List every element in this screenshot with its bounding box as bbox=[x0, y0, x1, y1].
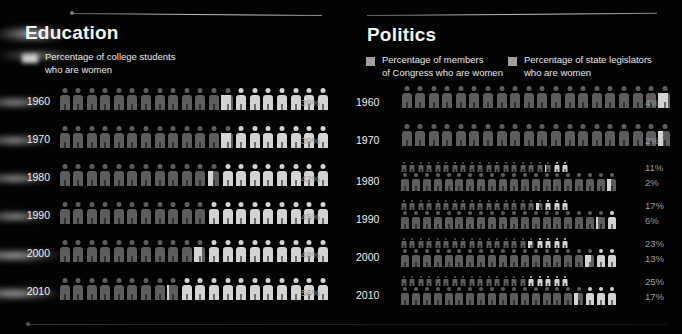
person-icon bbox=[153, 164, 166, 186]
person-icon bbox=[531, 249, 541, 267]
person-icon bbox=[444, 211, 454, 229]
person-icon bbox=[585, 287, 595, 305]
person-icon bbox=[550, 86, 563, 108]
legend-swatch-icon bbox=[508, 57, 517, 66]
person-icon bbox=[553, 276, 560, 286]
person-icon bbox=[542, 211, 552, 229]
person-icon bbox=[509, 249, 519, 267]
person-icon bbox=[180, 164, 193, 186]
person-icon bbox=[550, 124, 563, 146]
person-icon bbox=[400, 162, 407, 172]
percent-label: 48% bbox=[301, 249, 320, 260]
person-icon bbox=[511, 162, 518, 172]
person-icon bbox=[140, 126, 153, 148]
person-icon bbox=[477, 276, 484, 286]
percent-label-congress: 4% bbox=[645, 97, 659, 108]
education-pictogram bbox=[58, 202, 329, 224]
person-icon bbox=[542, 287, 552, 305]
person-icon bbox=[585, 211, 595, 229]
person-icon bbox=[531, 287, 541, 305]
person-icon bbox=[221, 126, 234, 148]
person-icon bbox=[494, 200, 501, 210]
politics-legend-state: Percentage of state legislators who are … bbox=[508, 54, 652, 79]
person-icon bbox=[498, 287, 508, 305]
pictogram-strip-congress bbox=[400, 124, 671, 146]
person-icon bbox=[180, 202, 193, 224]
person-icon bbox=[167, 88, 180, 110]
person-icon bbox=[454, 86, 467, 108]
person-icon bbox=[519, 238, 526, 248]
person-icon bbox=[414, 124, 427, 146]
person-icon bbox=[140, 202, 153, 224]
person-icon bbox=[411, 287, 421, 305]
person-icon bbox=[454, 173, 464, 191]
person-icon bbox=[536, 162, 543, 172]
person-icon bbox=[563, 249, 573, 267]
person-icon bbox=[552, 249, 562, 267]
person-icon bbox=[511, 238, 518, 248]
person-icon bbox=[427, 86, 440, 108]
person-icon bbox=[631, 124, 644, 146]
person-icon bbox=[221, 240, 234, 262]
person-icon bbox=[531, 173, 541, 191]
person-icon bbox=[426, 200, 433, 210]
person-icon bbox=[658, 124, 671, 146]
person-icon bbox=[468, 162, 475, 172]
person-icon bbox=[409, 162, 416, 172]
person-icon bbox=[545, 200, 552, 210]
education-pictogram bbox=[58, 164, 329, 186]
person-icon bbox=[433, 173, 443, 191]
person-icon bbox=[553, 238, 560, 248]
person-icon bbox=[422, 249, 432, 267]
person-icon bbox=[618, 124, 631, 146]
person-icon bbox=[409, 238, 416, 248]
person-icon bbox=[563, 211, 573, 229]
person-icon bbox=[112, 278, 125, 300]
person-icon bbox=[153, 88, 166, 110]
percent-label: 39% bbox=[301, 135, 320, 146]
person-icon bbox=[520, 173, 530, 191]
pictogram-strip-congress bbox=[400, 86, 671, 108]
person-icon bbox=[426, 162, 433, 172]
person-icon bbox=[509, 124, 522, 146]
person-icon bbox=[262, 164, 275, 186]
person-icon bbox=[577, 124, 590, 146]
person-icon bbox=[476, 287, 486, 305]
person-icon bbox=[180, 278, 193, 300]
person-icon bbox=[443, 238, 450, 248]
person-icon bbox=[417, 238, 424, 248]
person-icon bbox=[411, 173, 421, 191]
person-icon bbox=[545, 276, 552, 286]
person-icon bbox=[85, 202, 98, 224]
person-icon bbox=[520, 249, 530, 267]
person-icon bbox=[545, 162, 552, 172]
person-icon bbox=[454, 211, 464, 229]
bottom-divider-rule bbox=[28, 324, 668, 325]
person-icon bbox=[235, 126, 248, 148]
person-icon bbox=[167, 278, 180, 300]
person-icon bbox=[58, 88, 71, 110]
percent-label: 45% bbox=[301, 211, 320, 222]
person-icon bbox=[441, 124, 454, 146]
person-icon bbox=[477, 200, 484, 210]
person-icon bbox=[563, 86, 576, 108]
person-icon bbox=[248, 126, 261, 148]
education-pictogram bbox=[58, 240, 329, 262]
pictogram-strip bbox=[58, 240, 329, 262]
person-icon bbox=[487, 211, 497, 229]
person-icon bbox=[248, 164, 261, 186]
person-icon bbox=[590, 124, 603, 146]
politics-divider-rule bbox=[367, 13, 657, 16]
politics-pictogram bbox=[400, 238, 617, 267]
person-icon bbox=[417, 162, 424, 172]
person-icon bbox=[511, 276, 518, 286]
person-icon bbox=[574, 211, 584, 229]
person-icon bbox=[221, 164, 234, 186]
person-icon bbox=[451, 200, 458, 210]
person-icon bbox=[248, 278, 261, 300]
person-icon bbox=[498, 211, 508, 229]
education-panel: Education Percentage of college students… bbox=[0, 0, 345, 334]
person-icon bbox=[112, 88, 125, 110]
person-icon bbox=[262, 240, 275, 262]
person-icon bbox=[443, 276, 450, 286]
